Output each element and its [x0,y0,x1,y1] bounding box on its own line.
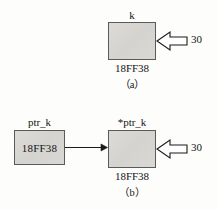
panel-a-memory-box [108,22,156,60]
panel-b-value-label: 30 [191,142,202,153]
panel-a-address-label: 18FF38 [100,63,164,74]
panel-b-link-arrow-head-icon [101,144,108,151]
panel-b-target-box [108,130,156,168]
panel-b-pointer-label: ptr_k [14,117,65,128]
panel-a-value-arrow-icon [157,32,187,50]
panel-a-variable-label: k [108,10,156,21]
panel-b-pointer-box: 18FF38 [14,130,65,165]
panel-a-tag: （a） [100,80,164,91]
panel-b-target-label: *ptr_k [108,117,156,128]
panel-b-pointer-value: 18FF38 [15,142,64,154]
panel-b-value-arrow-icon [157,140,187,158]
panel-b-tag: （b） [100,188,164,199]
figure-canvas: k 18FF38 30 （a） ptr_k 18FF38 *ptr_k 18FF… [0,0,217,210]
panel-b-address-label: 18FF38 [100,171,164,182]
panel-a-value-label: 30 [191,34,202,45]
